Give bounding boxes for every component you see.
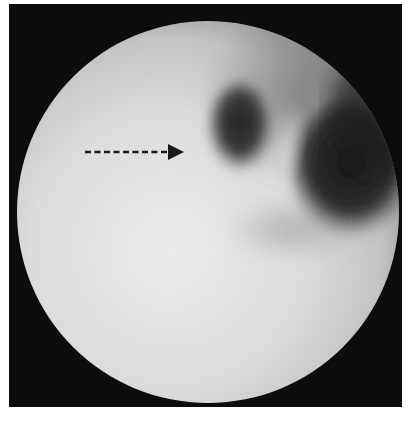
endoscopic-field	[9, 4, 402, 407]
endoscope-frame	[9, 4, 402, 407]
left-lumen	[208, 82, 272, 174]
